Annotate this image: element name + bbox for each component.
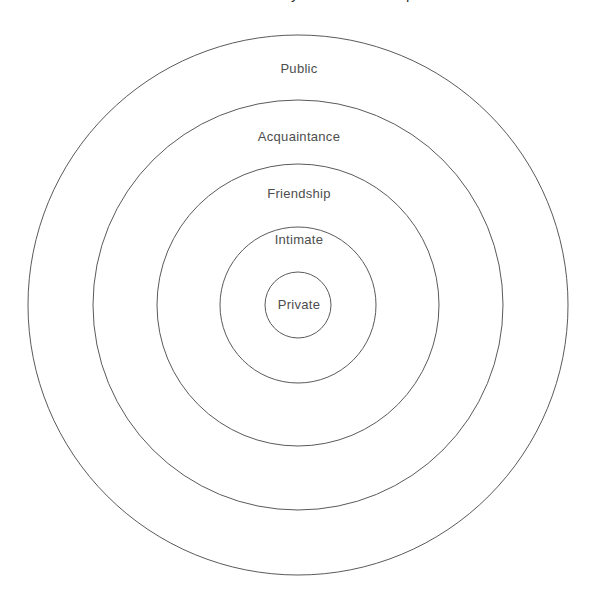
intimacy-circles-diagram: Circles of Intimacy and Relationships Pu… <box>0 0 598 602</box>
ring-circle-public[interactable] <box>28 35 568 575</box>
ring-circle-friendship[interactable] <box>157 164 439 446</box>
ring-circle-private[interactable] <box>265 272 331 338</box>
ring-circle-acquaintance[interactable] <box>93 100 503 510</box>
ring-circle-intimate[interactable] <box>220 227 376 383</box>
concentric-rings-svg <box>0 0 598 602</box>
